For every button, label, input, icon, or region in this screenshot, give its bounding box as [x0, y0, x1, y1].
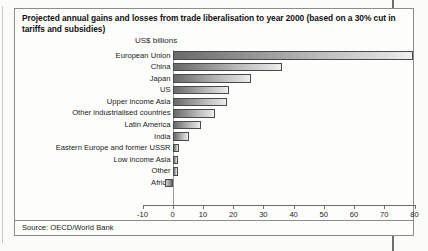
bar-row: China	[15, 62, 415, 74]
x-axis-tick-label: 70	[380, 210, 388, 219]
page-margin-tick-bottom	[392, 236, 394, 251]
bar-track	[143, 73, 415, 85]
bar-track	[143, 62, 415, 74]
bar	[173, 98, 227, 106]
source-note: Source: OECD/World Bank	[22, 223, 113, 232]
x-axis-tick-label: 60	[350, 210, 358, 219]
x-axis-tick	[354, 205, 355, 209]
x-axis-tick	[233, 205, 234, 209]
bar-track	[143, 166, 415, 178]
bar-track	[143, 108, 415, 120]
bar	[173, 144, 179, 152]
bar-row: Upper income Asia	[15, 96, 415, 108]
page-gutter-rule	[2, 6, 3, 243]
x-axis-tick-label: 20	[229, 210, 237, 219]
bar-row: Other industrialised countries	[15, 108, 415, 120]
x-axis-tick-label: 0	[171, 210, 175, 219]
bar-row: European Union	[15, 50, 415, 62]
x-axis-unit-label: US$ billions	[135, 36, 177, 45]
bar-row: Latin America	[15, 120, 415, 132]
bar-rows: European UnionChinaJapanUSUpper income A…	[15, 50, 415, 189]
bar-track	[143, 120, 415, 132]
bar-track	[143, 50, 415, 62]
bar-row: India	[15, 131, 415, 143]
bar	[165, 179, 173, 187]
bar-track	[143, 143, 415, 155]
bar-row: US	[15, 85, 415, 97]
chart-title: Projected annual gains and losses from t…	[22, 13, 410, 34]
bar-row: Japan	[15, 73, 415, 85]
bar	[173, 132, 190, 140]
bar-track	[143, 178, 415, 190]
bar	[173, 51, 413, 59]
source-divider	[15, 220, 413, 221]
x-axis-tick-label: 80	[410, 210, 418, 219]
x-axis-tick	[294, 205, 295, 209]
x-axis-tick	[263, 205, 264, 209]
x-axis-tick-label: 30	[259, 210, 267, 219]
bar-row: Low income Asia	[15, 154, 415, 166]
bar-row: Other	[15, 166, 415, 178]
x-axis-tick	[203, 205, 204, 209]
bar	[173, 156, 178, 164]
x-axis-tick-label: 10	[199, 210, 207, 219]
plot-area: European UnionChinaJapanUSUpper income A…	[15, 50, 415, 205]
x-axis-tick	[143, 205, 144, 209]
bar-row: Eastern Europe and former USSR	[15, 143, 415, 155]
bar	[173, 121, 202, 129]
bar-track	[143, 131, 415, 143]
bar	[173, 109, 215, 117]
x-axis-tick-label: 50	[320, 210, 328, 219]
bar-track	[143, 96, 415, 108]
x-axis-tick	[384, 205, 385, 209]
chart-figure: Projected annual gains and losses from t…	[14, 8, 414, 236]
x-axis-line	[143, 205, 415, 206]
x-axis-tick-label: -10	[137, 210, 148, 219]
bar	[173, 63, 282, 71]
bar	[173, 167, 178, 175]
bar-row: Africa	[15, 178, 415, 190]
x-axis-tick	[415, 205, 416, 209]
x-axis-tick	[324, 205, 325, 209]
x-axis-tick-label: 40	[289, 210, 297, 219]
bar-track	[143, 154, 415, 166]
x-axis-tick	[173, 205, 174, 209]
bar	[173, 86, 229, 94]
bar-track	[143, 85, 415, 97]
bar	[173, 74, 252, 82]
